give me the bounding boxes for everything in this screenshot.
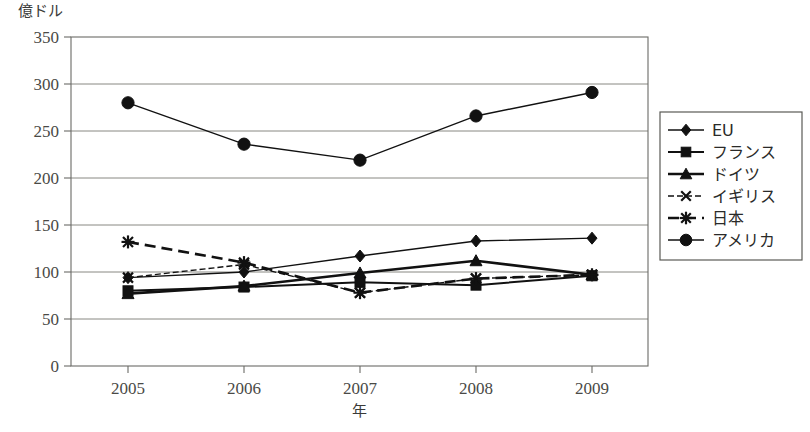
x-tick-label: 2006 xyxy=(227,379,261,398)
plot-frame xyxy=(71,37,648,366)
y-tick-label: 200 xyxy=(34,169,60,188)
line-chart: 050100150200250300350 200520062007200820… xyxy=(0,0,810,432)
data-series-layer xyxy=(122,86,599,299)
data-point-marker xyxy=(587,232,597,244)
x-tick-label: 2007 xyxy=(343,379,378,398)
data-point-marker xyxy=(122,97,134,109)
data-point-marker xyxy=(355,250,365,262)
series-line xyxy=(128,92,592,160)
x-tick-label: 2005 xyxy=(111,379,145,398)
data-point-marker xyxy=(681,147,691,157)
data-point-marker xyxy=(680,234,692,246)
legend-label: イギリス xyxy=(712,187,776,206)
data-point-marker xyxy=(680,212,693,225)
data-point-marker xyxy=(238,256,251,269)
x-axis-tick-labels: 20052006200720082009 xyxy=(111,379,609,398)
legend-label: フランス xyxy=(712,143,776,162)
data-point-marker xyxy=(470,272,483,285)
y-tick-label: 50 xyxy=(42,310,59,329)
x-axis-title: 年 xyxy=(352,402,367,420)
legend-label: EU xyxy=(712,121,734,140)
x-tick-label: 2009 xyxy=(575,379,609,398)
legend-label: ドイツ xyxy=(712,165,760,184)
data-point-marker xyxy=(471,235,481,247)
series-6 xyxy=(122,86,598,166)
data-point-marker xyxy=(355,277,365,287)
data-point-marker xyxy=(122,235,135,248)
y-tick-label: 100 xyxy=(34,263,60,282)
legend-label: アメリカ xyxy=(712,231,775,250)
data-point-marker xyxy=(470,110,482,122)
axis-ticks xyxy=(64,37,592,373)
data-point-marker xyxy=(354,154,366,166)
y-tick-label: 150 xyxy=(34,216,60,235)
y-tick-label: 350 xyxy=(34,28,60,47)
y-axis-tick-labels: 050100150200250300350 xyxy=(34,28,60,376)
data-point-marker xyxy=(586,268,599,281)
data-point-marker xyxy=(354,286,367,299)
chart-container: 050100150200250300350 200520062007200820… xyxy=(0,0,810,432)
legend: EUフランスドイツイギリス日本アメリカ xyxy=(660,112,802,260)
y-tick-label: 250 xyxy=(34,122,60,141)
plot-border xyxy=(71,37,648,366)
y-tick-label: 0 xyxy=(51,357,60,376)
y-tick-label: 300 xyxy=(34,75,60,94)
x-tick-label: 2008 xyxy=(459,379,493,398)
data-point-marker xyxy=(238,138,250,150)
legend-label: 日本 xyxy=(712,209,744,228)
data-point-marker xyxy=(586,86,598,98)
y-axis-title: 億ドル xyxy=(18,2,63,20)
